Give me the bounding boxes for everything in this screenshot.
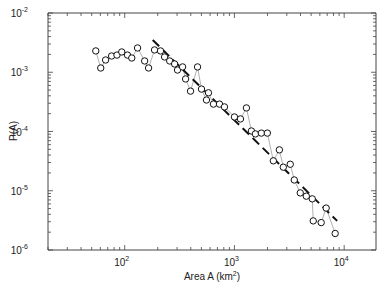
data-point-marker [182, 76, 188, 82]
data-point-marker [151, 47, 157, 53]
data-markers [93, 45, 339, 237]
x-tick-label: 104 [334, 255, 349, 268]
data-point-marker [237, 116, 243, 122]
data-point-marker [157, 48, 163, 54]
x-axis-tick-labels: 102103104 [114, 255, 349, 268]
y-tick-label: 10-5 [11, 184, 28, 197]
data-connector-line [96, 48, 335, 234]
y-axis-title: P(A) [8, 121, 19, 141]
x-tick-label: 102 [114, 255, 129, 268]
data-point-marker [205, 90, 211, 96]
data-point-marker [231, 114, 237, 120]
data-point-marker [252, 131, 258, 137]
data-point-marker [332, 230, 338, 236]
data-point-marker [264, 130, 270, 136]
data-point-marker [221, 104, 227, 110]
y-tick-label: 10-2 [11, 6, 28, 19]
data-point-marker [134, 45, 140, 51]
data-point-marker [141, 58, 147, 64]
data-point-marker [303, 193, 309, 199]
data-point-marker [203, 97, 209, 103]
data-point-marker [171, 61, 177, 67]
data-point-marker [93, 48, 99, 54]
chart: 102103104 10-210-310-410-510-6 Area A (k… [0, 0, 386, 291]
data-point-marker [291, 177, 297, 183]
x-axis-title: Area A (km2) [184, 270, 240, 282]
data-point-marker [187, 88, 193, 94]
data-point-marker [310, 218, 316, 224]
data-point-marker [129, 55, 135, 61]
data-point-marker [287, 161, 293, 167]
data-point-marker [309, 196, 315, 202]
data-point-marker [243, 105, 249, 111]
data-point-marker [102, 57, 108, 63]
data-point-marker [297, 190, 303, 196]
data-point-marker [198, 86, 204, 92]
y-tick-label: 10-3 [11, 65, 28, 78]
data-point-marker [258, 130, 264, 136]
data-point-marker [145, 65, 151, 71]
data-point-marker [323, 205, 329, 211]
data-point-marker [179, 64, 185, 70]
y-tick-label: 10-6 [11, 243, 28, 256]
data-point-marker [318, 219, 324, 225]
data-point-marker [280, 164, 286, 170]
x-tick-label: 103 [224, 255, 239, 268]
data-point-marker [276, 147, 282, 153]
data-point-marker [210, 101, 216, 107]
data-point-marker [270, 158, 276, 164]
data-point-marker [98, 65, 104, 71]
data-point-marker [194, 64, 200, 70]
